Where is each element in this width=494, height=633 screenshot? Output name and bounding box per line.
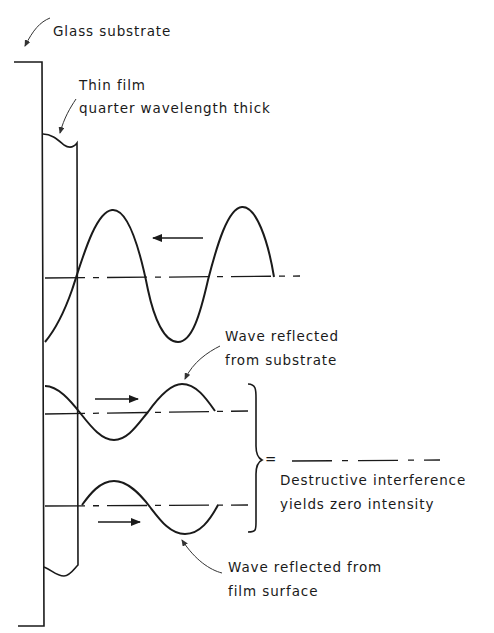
zero-amplitude-line <box>292 460 440 461</box>
curly-brace <box>248 384 262 532</box>
reflected-substrate-text-line2: from substrate <box>225 352 337 368</box>
glass-substrate-text: Glass substrate <box>53 23 171 39</box>
reflected-film-text-line1: Wave reflected from <box>228 559 382 575</box>
destructive-text-line1: Destructive interference <box>280 472 466 488</box>
destructive-text-line2: yields zero intensity <box>280 496 434 512</box>
reflected-substrate-text-line1: Wave reflected <box>225 328 339 344</box>
thin-film <box>43 134 78 576</box>
glass-substrate <box>14 62 44 626</box>
incident-wave <box>45 207 300 342</box>
thin-film-text-line1: Thin film <box>78 77 146 93</box>
wave-reflected-from-substrate: Wave reflected from substrate <box>45 328 339 440</box>
interference-result: = Destructive interference yields zero i… <box>248 384 466 532</box>
glass-substrate-label: Glass substrate <box>25 18 171 46</box>
thin-film-text-line2: quarter wavelength thick <box>79 100 271 116</box>
thin-film-label: Thin film quarter wavelength thick <box>60 77 271 133</box>
equals-sign: = <box>265 451 277 467</box>
reflected-film-text-line2: film surface <box>228 583 318 599</box>
thin-film-interference-diagram: Glass substrate Thin film quarter wavele… <box>0 0 494 633</box>
